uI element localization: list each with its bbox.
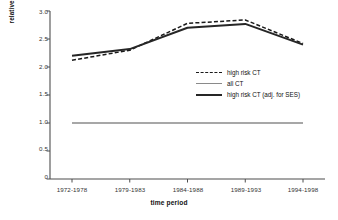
chart-container: relative risk time period 3.0 2.5 2.0 1.… [0,0,338,220]
legend-label: high risk CT (adj. for SES) [227,91,300,98]
legend-item-high-risk-ct: high risk CT [196,67,300,78]
legend-swatch-thick-line-icon [196,92,222,98]
chart-legend: high risk CT all CT high risk CT (adj. f… [196,67,300,100]
legend-swatch-thin-line-icon [196,81,222,87]
legend-item-high-risk-ct-adj-ses: high risk CT (adj. for SES) [196,89,300,100]
legend-item-all-ct: all CT [196,78,300,89]
series-line [72,20,303,60]
plot-area [0,0,338,220]
legend-swatch-dashed-icon [196,70,222,76]
legend-label: all CT [227,80,243,87]
legend-label: high risk CT [227,69,261,76]
